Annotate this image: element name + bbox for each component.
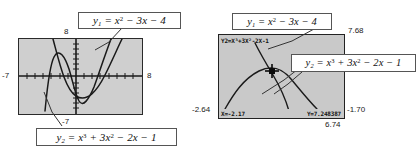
calculator-graph-svg: [219, 35, 344, 118]
window-label-xmax: 6.74: [325, 120, 341, 129]
axis-label-right-left: 8: [147, 71, 151, 80]
window-label-ymax: 7.68: [348, 26, 364, 35]
axis-label-top-left: 8: [64, 27, 68, 36]
calculator-equation-label: Y2=X³+3X²-2X-1: [221, 37, 269, 44]
equation-y2-right: y2 = x3 + 3x2 − 2x − 1: [306, 57, 402, 69]
calculator-x-readout: X=-2.17: [221, 110, 245, 117]
figure-stage: y1 = x2 − 3x − 4: [0, 0, 418, 155]
calculator-y-readout: Y=7.248387: [307, 110, 341, 117]
callout-y2-left: y2 = x3 + 3x2 − 2x − 1: [36, 128, 177, 146]
calculator-screen: Y2=X³+3X²-2X-1 X=-2.17 Y=7.248387: [218, 34, 345, 119]
graph-svg-left: [19, 39, 142, 114]
callout-y2-right: y2 = x3 + 3x2 − 2x − 1: [291, 54, 416, 72]
equation-y1-right: y1 = x2 − 3x − 4: [247, 16, 317, 28]
window-label-xmin: -2.64: [192, 105, 210, 114]
window-label-ymin: -1.70: [347, 105, 365, 114]
axis-label-bottom-left: -7: [62, 117, 69, 126]
equation-y1-left: y1 = x2 − 3x − 4: [93, 14, 166, 27]
equation-y2-left: y2 = x3 + 3x2 − 2x − 1: [56, 131, 156, 144]
axis-label-left-left: -7: [2, 71, 9, 80]
callout-y1-right: y1 = x2 − 3x − 4: [232, 13, 332, 30]
callout-y1-left: y1 = x2 − 3x − 4: [78, 12, 181, 29]
curve-y1-left: [53, 39, 122, 98]
graph-window-left: [18, 38, 143, 115]
curve-y2-left: [45, 39, 111, 111]
